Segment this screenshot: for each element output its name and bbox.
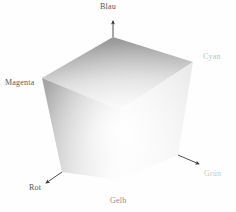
label-gelb: Gelb — [110, 196, 126, 205]
gruen-axis-line — [178, 155, 199, 164]
label-blau: Blau — [100, 2, 116, 11]
cube-drawing — [0, 0, 236, 212]
label-rot: Rot — [29, 183, 41, 192]
cube-center-glow — [42, 37, 193, 180]
cube-faces — [42, 37, 193, 180]
label-gruen: Grün — [204, 169, 221, 178]
rot-axis-line — [46, 172, 62, 183]
color-cube-figure: Blau Cyan Magenta Rot Gelb Grün — [0, 0, 236, 212]
label-cyan: Cyan — [203, 52, 221, 61]
label-magenta: Magenta — [5, 78, 34, 87]
